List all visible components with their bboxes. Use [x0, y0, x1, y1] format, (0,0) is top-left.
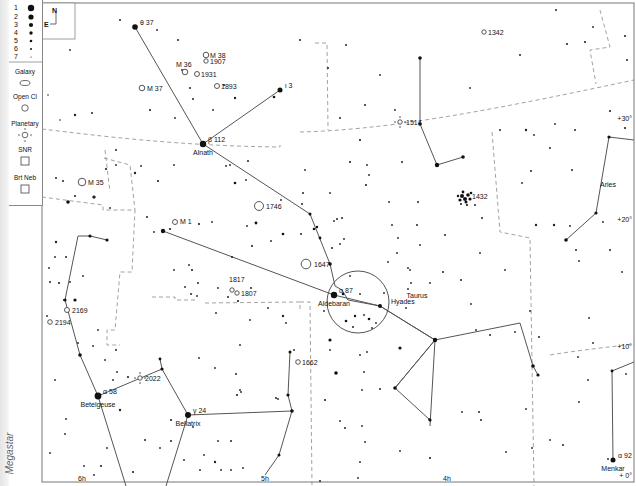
- legend-open-cl-label: Open Cl: [13, 93, 37, 101]
- dso-label[interactable]: 1342: [488, 29, 504, 36]
- legend-brt-neb-label: Brt Neb: [14, 174, 36, 181]
- planetary-nebula-icon: [138, 376, 142, 380]
- dso-label[interactable]: M 35: [88, 179, 104, 186]
- open-cluster-icon: [296, 360, 301, 365]
- snr-icon: [21, 157, 29, 165]
- orientation-indicator: N E: [42, 3, 75, 39]
- constellation-label: Aries: [600, 181, 616, 188]
- dso-label[interactable]: M 37: [147, 85, 163, 92]
- east-label: E: [44, 21, 49, 28]
- chart-frame: [42, 3, 634, 482]
- dso-label[interactable]: 1807: [241, 290, 257, 297]
- star-name-label[interactable]: Alnath: [193, 149, 213, 156]
- planetary-nebula-icon: [18, 128, 32, 142]
- dso-label[interactable]: 1514: [406, 119, 422, 126]
- dec-tick-label: +20°: [617, 216, 632, 223]
- dec-tick-label: +30°: [617, 115, 632, 122]
- star-designation-label[interactable]: β 112: [208, 136, 225, 144]
- dso-label[interactable]: 1746: [266, 203, 282, 210]
- magnitude-scale: 1 2 3 4 5 6 7: [14, 4, 34, 60]
- snr-icon: [173, 220, 178, 225]
- open-cluster-icon: [482, 30, 486, 34]
- ra-tick-label: 6h: [78, 475, 86, 482]
- dec-tick-label: +10°: [617, 343, 632, 350]
- magnitude-label: 2: [14, 13, 18, 20]
- star-designation-label[interactable]: α 92: [618, 452, 632, 459]
- constellation-boundaries: [42, 10, 634, 486]
- magnitude-label: 3: [14, 21, 18, 28]
- dso-label[interactable]: M 36: [176, 61, 192, 68]
- open-cluster-icon: [255, 202, 264, 211]
- open-cluster-icon: [230, 288, 234, 292]
- open-cluster-icon: [182, 69, 188, 75]
- star-designation-label[interactable]: α 58: [103, 388, 117, 395]
- star-designation-label[interactable]: γ 24: [193, 407, 206, 415]
- open-cluster-icon: [48, 320, 53, 325]
- bright-nebula-icon: [21, 185, 29, 193]
- ra-tick-label: 5h: [261, 475, 269, 482]
- megastar-watermark: Megastar: [4, 429, 15, 479]
- open-cluster-icon: [301, 259, 311, 269]
- magnitude-label: 1: [14, 4, 18, 11]
- magnitude-label: 6: [14, 45, 18, 52]
- dso-label[interactable]: 1432: [472, 193, 488, 200]
- open-cluster-icon: [195, 72, 200, 77]
- object-type-legend: Galaxy Open Cl Planetary SNR Brt Neb: [11, 68, 39, 193]
- magnitude-label: 4: [14, 29, 18, 36]
- constellation-label: Taurus: [406, 292, 428, 299]
- dso-label[interactable]: 1893: [221, 83, 237, 90]
- open-cluster-icon: [235, 291, 239, 295]
- star-designation-label[interactable]: α 87: [339, 287, 353, 294]
- magnitude-label: 7: [14, 53, 18, 60]
- star-name-label[interactable]: Menkar: [601, 465, 625, 472]
- planetary-ticks: [134, 116, 406, 384]
- star-designation-label[interactable]: ι 3: [285, 82, 293, 89]
- ra-tick-label: 4h: [443, 475, 451, 482]
- open-cluster-icon: [65, 308, 70, 313]
- dso-label[interactable]: M 1: [180, 218, 192, 225]
- legend-snr-label: SNR: [18, 146, 32, 153]
- planetary-nebula-icon: [398, 120, 402, 124]
- legend-planetary-label: Planetary: [11, 120, 39, 128]
- dso-label[interactable]: 1907: [210, 58, 226, 65]
- magnitude-label: 5: [14, 37, 18, 44]
- dso-label[interactable]: 2194: [55, 319, 71, 326]
- dso-label[interactable]: Hyades: [391, 298, 415, 306]
- open-cluster-icon: [203, 52, 209, 58]
- star-name-label[interactable]: Aldebaran: [318, 300, 350, 307]
- dso-label[interactable]: 1662: [302, 359, 318, 366]
- star-chart[interactable]: N E M 381907M 3619311893M 3713421514M 35…: [0, 0, 636, 486]
- star-name-label[interactable]: Betelgeuse: [80, 401, 115, 409]
- galaxy-icon: [20, 81, 30, 86]
- dec-tick-label: + 0°: [619, 472, 632, 479]
- dso-label[interactable]: 1647: [314, 261, 330, 268]
- sky-map-canvas[interactable]: N E M 381907M 3619311893M 3713421514M 35…: [0, 0, 636, 486]
- legend-panel: 1 2 3 4 5 6 7 Galaxy Open Cl Planetary S…: [9, 0, 43, 206]
- pleiades-cluster[interactable]: [457, 191, 473, 206]
- legend-galaxy-label: Galaxy: [15, 68, 36, 76]
- star-name-label[interactable]: Bellatrix: [176, 420, 201, 427]
- open-cluster-icon: [215, 84, 220, 89]
- dso-label[interactable]: 1931: [201, 71, 217, 78]
- open-cluster-icon: [139, 85, 145, 91]
- dso-label[interactable]: 2169: [72, 307, 88, 314]
- star-designation-label[interactable]: θ 37: [140, 19, 154, 26]
- constellation-lines: [65, 27, 634, 486]
- open-cluster-icon: [22, 105, 28, 111]
- dso-label[interactable]: 1817: [229, 276, 245, 283]
- dso-label[interactable]: 2022: [145, 375, 161, 382]
- open-cluster-icon: [204, 59, 208, 63]
- north-label: N: [52, 7, 57, 14]
- legend-graphics: 1 2 3 4 5 6 7 Galaxy Open Cl Planetary S…: [9, 0, 42, 205]
- open-cluster-icon: [78, 178, 86, 186]
